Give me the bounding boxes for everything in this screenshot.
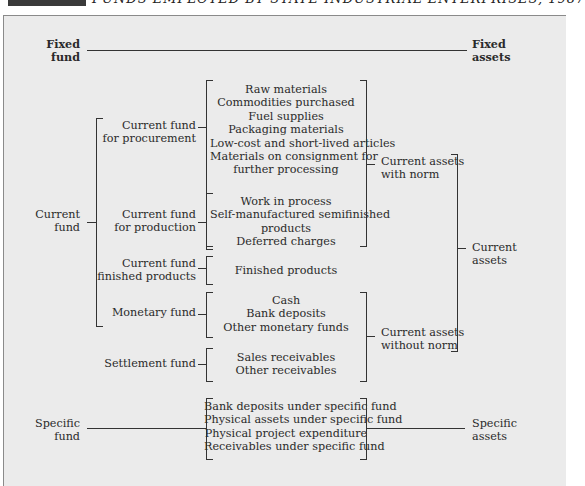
specific-assets-label: Specificassets <box>472 417 517 444</box>
procurement-items: Raw materials Commodities purchased Fuel… <box>210 83 362 177</box>
production-tick <box>198 222 206 223</box>
procurement-fund-label: Current fundfor procurement <box>100 119 196 146</box>
specific-fund-line <box>87 428 206 429</box>
production-fund-label: Current fundfor production <box>100 208 196 235</box>
current-assets-label: Currentassets <box>472 241 517 268</box>
current-assets-tick <box>458 248 466 249</box>
monetary-fund-label: Monetary fund <box>80 306 196 319</box>
finished-fund-label: Current fundfinished products <box>80 257 196 284</box>
settlement-fund-label: Settlement fund <box>60 357 196 370</box>
monetary-tick <box>198 314 206 315</box>
without-norm-tick <box>367 336 375 337</box>
exhibit-label-box <box>8 0 86 6</box>
settlement-tick <box>198 364 206 365</box>
finished-items: Finished products <box>210 264 362 277</box>
monetary-items: Cash Bank deposits Other monetary funds <box>210 294 362 334</box>
with-norm-bracket <box>360 80 367 247</box>
without-norm-bracket <box>360 292 367 382</box>
with-norm-tick <box>367 164 375 165</box>
current-fund-label: Currentfund <box>30 208 80 235</box>
specific-items-right-bracket <box>360 398 367 460</box>
settlement-items: Sales receivables Other receivables <box>210 351 362 378</box>
specific-items: Bank deposits under specific fund Physic… <box>204 400 368 454</box>
finished-tick <box>198 268 206 269</box>
production-items: Work in process Self-manufactured semifi… <box>210 195 362 249</box>
specific-fund-label: Specificfund <box>30 417 80 444</box>
fixed-assets-label: Fixedassets <box>472 38 510 65</box>
fixed-connector-line <box>87 50 467 51</box>
current-fund-tick <box>87 222 96 223</box>
specific-assets-line <box>367 428 465 429</box>
fixed-fund-label: Fixedfund <box>40 38 80 65</box>
current-assets-bracket <box>451 154 458 352</box>
procurement-tick <box>198 127 206 128</box>
exhibit-title-bar: FUNDS EMPLOYED BY STATE INDUSTRIAL ENTER… <box>0 0 565 7</box>
exhibit-title: FUNDS EMPLOYED BY STATE INDUSTRIAL ENTER… <box>92 0 585 6</box>
